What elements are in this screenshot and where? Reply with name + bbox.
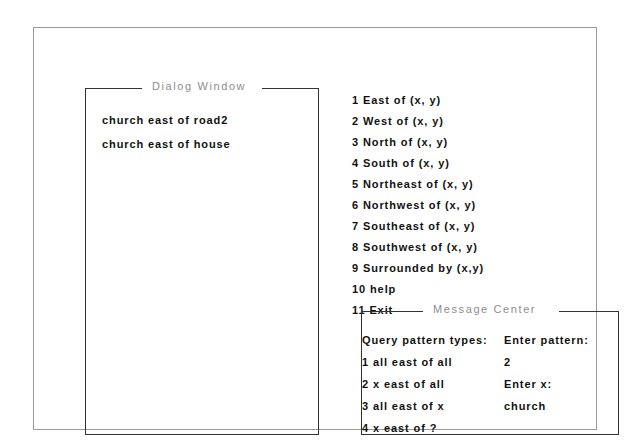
message-center-title: Message Center: [427, 303, 542, 315]
dialog-window-top-border-right: [262, 88, 319, 89]
menu-item-south[interactable]: 4 South of (x, y): [352, 153, 484, 174]
outer-page-frame: Dialog Window church east of road2 churc…: [33, 27, 597, 430]
dialog-line: church east of road2: [102, 114, 231, 126]
dialog-window-content: church east of road2 church east of hous…: [102, 114, 231, 162]
message-center-panel: Message Center Query pattern types: 1 al…: [361, 311, 619, 435]
menu-item-help[interactable]: 10 help: [352, 279, 484, 300]
query-pattern-option-4[interactable]: 4 x east of ?: [362, 417, 504, 439]
menu-item-southeast[interactable]: 7 Southeast of (x, y): [352, 216, 484, 237]
dialog-window-top-border-left: [85, 88, 142, 89]
enter-x-value[interactable]: church: [504, 395, 618, 417]
query-pattern-option-2[interactable]: 2 x east of all: [362, 373, 504, 395]
menu-item-southwest[interactable]: 8 Southwest of (x, y): [352, 237, 484, 258]
query-pattern-option-1[interactable]: 1 all east of all: [362, 351, 504, 373]
enter-x-label: Enter x:: [504, 373, 618, 395]
dialog-line: church east of house: [102, 138, 231, 150]
message-center-top-border-left: [361, 311, 423, 312]
direction-menu-list: 1 East of (x, y) 2 West of (x, y) 3 Nort…: [352, 90, 484, 321]
message-center-content: Query pattern types: 1 all east of all 2…: [362, 329, 618, 439]
menu-item-west[interactable]: 2 West of (x, y): [352, 111, 484, 132]
enter-pattern-value[interactable]: 2: [504, 351, 618, 373]
query-pattern-column: Query pattern types: 1 all east of all 2…: [362, 329, 504, 439]
query-pattern-heading: Query pattern types:: [362, 329, 504, 351]
message-center-top-border-right: [559, 311, 619, 312]
dialog-window-bottom-border: [85, 434, 319, 435]
dialog-window-right-border: [318, 88, 319, 435]
enter-pattern-label: Enter pattern:: [504, 329, 618, 351]
menu-item-east[interactable]: 1 East of (x, y): [352, 90, 484, 111]
message-center-right-border: [618, 311, 619, 435]
entry-column: Enter pattern: 2 Enter x: church: [504, 329, 618, 439]
query-pattern-option-3[interactable]: 3 all east of x: [362, 395, 504, 417]
dialog-window-panel: Dialog Window church east of road2 churc…: [85, 88, 319, 435]
menu-item-north[interactable]: 3 North of (x, y): [352, 132, 484, 153]
dialog-window-left-border: [85, 88, 86, 435]
menu-item-surrounded-by[interactable]: 9 Surrounded by (x,y): [352, 258, 484, 279]
menu-item-northwest[interactable]: 6 Northwest of (x, y): [352, 195, 484, 216]
dialog-window-title: Dialog Window: [146, 80, 252, 92]
menu-item-northeast[interactable]: 5 Northeast of (x, y): [352, 174, 484, 195]
